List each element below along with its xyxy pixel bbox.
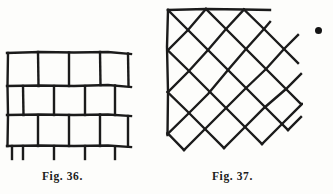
figure-36-caption: Fig. 36. — [42, 170, 83, 182]
diag-dr-4 — [168, 50, 263, 144]
diag-ur-5 — [224, 74, 301, 148]
figure-37 — [158, 2, 303, 172]
brick-edge-left — [8, 53, 9, 146]
joint-r1-3 — [100, 52, 101, 85]
joint-r1-1 — [38, 52, 39, 86]
border-top — [168, 9, 270, 10]
figure-36 — [0, 42, 150, 172]
joint-r1-4 — [128, 54, 129, 86]
border-left — [167, 10, 168, 135]
diag-ur-7 — [288, 117, 301, 130]
diag-dr-6 — [168, 133, 185, 150]
figure-37-drawing — [158, 2, 303, 172]
stray-ink-blot-mark — [315, 27, 322, 34]
scanned-page: Fig. 36. Fig. 37. — [0, 0, 333, 194]
figure-36-drawing — [0, 42, 150, 172]
joint-r2-1 — [23, 86, 24, 115]
figure-37-caption: Fig. 37. — [212, 170, 253, 182]
